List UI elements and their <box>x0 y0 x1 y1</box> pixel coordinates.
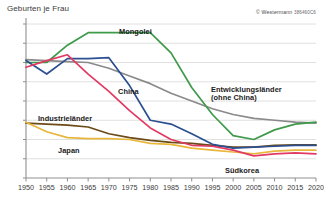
x-tick-1995: 1995 <box>204 184 220 191</box>
x-tick-1960: 1960 <box>59 184 75 191</box>
series-label-japan: Japan <box>58 147 80 155</box>
series-label-mongolei: Mongolei <box>119 28 152 36</box>
x-tick-1965: 1965 <box>80 184 96 191</box>
x-tick-1985: 1985 <box>163 184 179 191</box>
x-tick-2010: 2010 <box>267 184 283 191</box>
series-label-entwicklungslaender: Entwicklungsländer (ohne China) <box>211 86 282 103</box>
x-axis-ticks: 1950195519601965197019751980198519901995… <box>0 184 321 198</box>
y-axis-ticks: 012345678 <box>0 0 25 205</box>
x-tick-2015: 2015 <box>287 184 303 191</box>
x-tick-1950: 1950 <box>18 184 34 191</box>
x-tick-1980: 1980 <box>142 184 158 191</box>
x-tick-1990: 1990 <box>184 184 200 191</box>
x-tick-2005: 2005 <box>246 184 262 191</box>
series-label-industrielaender: Industrieländer <box>38 115 92 123</box>
series-label-suedkorea: Südkorea <box>225 167 259 175</box>
x-tick-2000: 2000 <box>225 184 241 191</box>
x-tick-1975: 1975 <box>122 184 138 191</box>
x-tick-1955: 1955 <box>39 184 55 191</box>
series-label-china: China <box>118 88 139 96</box>
entwicklungslaender-line2: (ohne China) <box>211 93 257 102</box>
x-tick-1970: 1970 <box>101 184 117 191</box>
x-tick-2020: 2020 <box>308 184 324 191</box>
